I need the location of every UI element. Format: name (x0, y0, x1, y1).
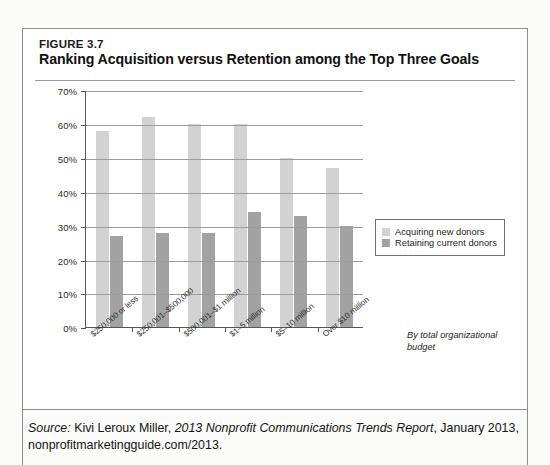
figure-number: FIGURE 3.7 (39, 38, 511, 50)
bar-groups (86, 91, 363, 327)
bar-group (96, 91, 123, 327)
bar-group (326, 91, 353, 327)
y-axis-tick (81, 328, 86, 329)
bar-acquiring (96, 131, 109, 327)
source-report-title: 2013 Nonprofit Communications Trends Rep… (175, 421, 434, 435)
chart-legend: Acquiring new donors Retaining current d… (375, 219, 505, 256)
figure-title-area: FIGURE 3.7 Ranking Acquisition versus Re… (23, 29, 527, 75)
page-border-left (22, 410, 23, 465)
legend-swatch-icon-acquiring (382, 228, 390, 236)
source-author: Kivi Leroux Miller, (71, 421, 175, 435)
legend-swatch-icon-retaining (382, 239, 390, 247)
gridline (86, 261, 363, 262)
y-axis-tick (81, 193, 86, 194)
source-label: Source: (28, 421, 71, 435)
legend-item-acquiring: Acquiring new donors (382, 227, 497, 237)
y-axis-tick (81, 125, 86, 126)
y-axis-tick-label: 0% (63, 323, 77, 334)
legend-item-retaining: Retaining current donors (382, 238, 497, 248)
y-axis-tick-label: 50% (58, 154, 77, 165)
bar-group (280, 91, 307, 327)
x-axis-labels: $250,000 or less$250,001–$500,000$500,00… (85, 330, 363, 390)
bar-acquiring (142, 117, 155, 327)
y-axis-tick (81, 159, 86, 160)
plot-area: 0%10%20%30%40%50%60%70% (85, 91, 363, 328)
gridline (86, 159, 363, 160)
y-axis-tick-label: 20% (58, 255, 77, 266)
gridline (86, 91, 363, 92)
y-axis-tick-label: 60% (58, 120, 77, 131)
legend-label-retaining: Retaining current donors (395, 238, 497, 248)
y-axis-tick (81, 261, 86, 262)
source-caption: Source: Kivi Leroux Miller, 2013 Nonprof… (28, 420, 528, 453)
legend-label-acquiring: Acquiring new donors (395, 227, 484, 237)
chart-area: 0%10%20%30%40%50%60%70% $250,000 or less… (23, 81, 527, 373)
bar-acquiring (280, 158, 293, 327)
y-axis-tick-label: 70% (58, 86, 77, 97)
y-axis-tick-label: 40% (58, 187, 77, 198)
gridline (86, 227, 363, 228)
y-axis-tick (81, 294, 86, 295)
figure-title: Ranking Acquisition versus Retention amo… (39, 51, 511, 68)
y-axis-tick (81, 91, 86, 92)
bar-group (142, 91, 169, 327)
y-axis-tick (81, 227, 86, 228)
figure-box: FIGURE 3.7 Ranking Acquisition versus Re… (22, 28, 528, 410)
y-axis-tick-label: 10% (58, 289, 77, 300)
gridline (86, 125, 363, 126)
y-axis-tick-label: 30% (58, 221, 77, 232)
gridline (86, 193, 363, 194)
axis-note: By total organizational budget (407, 330, 525, 354)
